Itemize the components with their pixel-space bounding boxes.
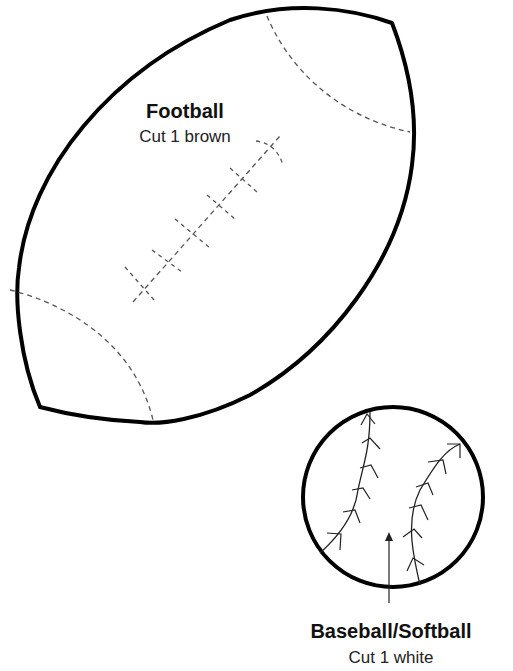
football-outline [17, 8, 414, 423]
baseball-title: Baseball/Softball [291, 620, 491, 643]
baseball-instruction: Cut 1 white [331, 648, 451, 668]
football-piece [10, 8, 414, 423]
baseball-outline [303, 407, 483, 587]
football-lace-line [133, 136, 280, 302]
football-title: Football [137, 100, 233, 123]
arrow-up-icon [385, 532, 393, 603]
football-seam-bottom-left [10, 290, 153, 420]
baseball-piece [303, 407, 483, 587]
football-instruction: Cut 1 brown [125, 127, 245, 147]
baseball-stitches-right [403, 444, 460, 571]
football-lace-crosses [125, 141, 283, 301]
football-seam-top-right [267, 16, 410, 132]
baseball-stitches-left [327, 414, 380, 550]
pattern-artwork [0, 0, 513, 671]
